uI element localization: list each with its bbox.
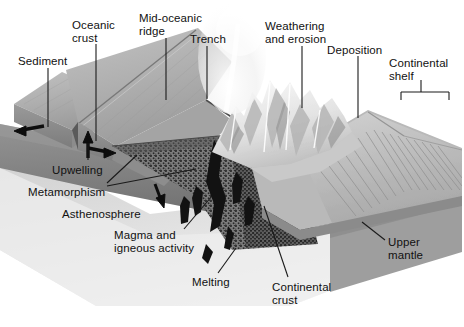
volcanic-plume <box>198 2 266 114</box>
geology-block-diagram: Sediment Oceanic crust Mid-oceanic ridge… <box>0 0 464 327</box>
continental-shelf-bracket <box>401 80 449 100</box>
diagram-canvas <box>0 0 464 327</box>
